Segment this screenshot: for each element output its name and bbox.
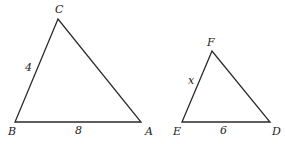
vertex-label-b: B [7,125,16,138]
similar-triangles-diagram: A B C 4 8 D E F x 6 [0,0,285,144]
vertex-label-a: A [144,125,153,138]
side-label-ef: x [188,74,195,87]
vertex-label-d: D [271,125,281,138]
vertex-label-c: C [55,3,64,16]
side-label-ba: 8 [75,124,82,137]
side-label-ed: 6 [220,124,227,137]
triangle-abc-outline [15,19,141,122]
triangle-def-outline [182,51,270,122]
side-label-bc: 4 [24,61,32,74]
vertex-label-e: E [172,125,181,138]
vertex-label-f: F [206,36,215,49]
triangle-abc: A B C 4 8 [7,3,153,138]
triangle-def: D E F x 6 [172,36,281,138]
